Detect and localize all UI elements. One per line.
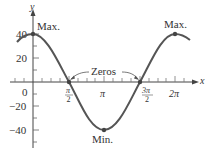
x-axis-label: x [199, 75, 205, 86]
zero-point-right [138, 80, 142, 84]
y-tick-20: 20 [16, 52, 28, 64]
zeros-label: Zeros [91, 65, 116, 77]
x-tick-3pi-over-2-num: 3π [141, 86, 151, 95]
max-point-left [31, 32, 35, 36]
zero-point-left [67, 80, 71, 84]
max-label-left: Max. [37, 20, 60, 32]
chart: y 40 20 0 −20 −40 x [0, 0, 207, 152]
max-label-right: Max. [164, 18, 187, 30]
x-tick-pi-over-2-den: 2 [67, 95, 71, 104]
y-tick-minus-40: −40 [9, 124, 27, 136]
x-tick-2pi: 2π [169, 88, 180, 99]
min-label: Min. [92, 133, 113, 145]
y-axis-label: y [29, 1, 35, 12]
x-tick-pi-over-2-num: π [66, 86, 71, 95]
max-point-right [173, 32, 177, 36]
x-tick-3pi-over-2-den: 2 [145, 95, 149, 104]
y-tick-minus-20: −20 [9, 100, 27, 112]
y-ticks [33, 34, 39, 142]
min-point [102, 128, 106, 132]
y-tick-0: 0 [22, 86, 28, 98]
x-tick-pi: π [100, 88, 106, 99]
x-axis-arrow-icon [192, 80, 199, 85]
